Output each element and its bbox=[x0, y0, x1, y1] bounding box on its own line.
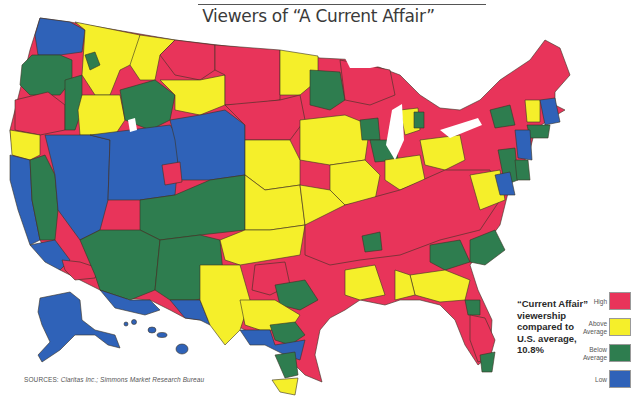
region-mi-c bbox=[414, 112, 424, 128]
region-miami bbox=[480, 352, 495, 372]
region-hawaii-3 bbox=[148, 327, 156, 333]
legend-label-low: Low bbox=[595, 376, 607, 384]
region-mil bbox=[360, 118, 380, 140]
legend-label-below: Below Average bbox=[577, 346, 607, 362]
legend-label-above: Above Average bbox=[577, 320, 607, 336]
region-slc bbox=[162, 162, 182, 185]
region-az bbox=[80, 230, 160, 300]
sources-note: SOURCES: Claritas Inc.; Simmons Market R… bbox=[24, 376, 204, 383]
region-or-south bbox=[10, 130, 40, 160]
sources-text: Claritas Inc.; Simmons Market Research B… bbox=[61, 376, 205, 383]
region-hawaii-4 bbox=[157, 333, 167, 338]
legend-high: High bbox=[560, 292, 637, 316]
region-hawaii-1 bbox=[124, 322, 128, 326]
region-alaska bbox=[38, 292, 120, 362]
region-ia bbox=[300, 115, 370, 165]
sources-prefix: SOURCES: bbox=[24, 376, 59, 383]
region-nyc bbox=[515, 130, 532, 160]
region-fl-panhandle bbox=[465, 300, 480, 315]
region-id-south bbox=[78, 95, 125, 135]
legend-swatch-high bbox=[609, 292, 631, 310]
region-hawaii-2 bbox=[132, 320, 137, 325]
region-corpus bbox=[275, 352, 298, 378]
lake-superior bbox=[345, 50, 400, 68]
region-hawaii-5 bbox=[176, 344, 188, 354]
region-vt bbox=[525, 100, 540, 122]
legend-label-high: High bbox=[594, 298, 607, 306]
region-wy bbox=[170, 110, 245, 180]
region-or-coast bbox=[20, 55, 72, 95]
region-brownsville bbox=[272, 378, 298, 395]
legend-above-average: Above Average bbox=[560, 318, 637, 342]
legend-swatch-above bbox=[609, 318, 631, 336]
legend-below-average: Below Average bbox=[560, 344, 637, 368]
legend-low: Low bbox=[560, 370, 637, 394]
region-nd bbox=[215, 45, 280, 105]
legend-swatch-below bbox=[609, 344, 631, 362]
region-philly bbox=[515, 160, 530, 180]
legend-swatch-low bbox=[609, 370, 631, 388]
